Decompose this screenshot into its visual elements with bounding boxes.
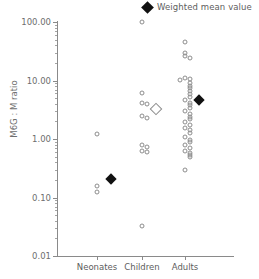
y-tick-major (53, 139, 57, 140)
y-tick-minor (55, 40, 57, 41)
x-tick (142, 256, 143, 260)
x-tick-label-children: Children (124, 262, 159, 272)
y-tick-minor (55, 180, 57, 181)
data-point (188, 105, 193, 110)
y-tick-label: 0.10 (32, 193, 51, 203)
data-point (140, 20, 145, 25)
y-tick-label: 100.00 (21, 17, 51, 27)
data-point (188, 131, 193, 136)
y-tick-major (53, 81, 57, 82)
y-tick-minor (55, 215, 57, 216)
y-tick-minor (55, 228, 57, 229)
data-point (188, 154, 193, 159)
y-tick-minor (55, 148, 57, 149)
y-tick-minor (55, 25, 57, 26)
y-tick-minor (55, 142, 57, 143)
y-tick-minor (55, 207, 57, 208)
data-point (145, 115, 150, 120)
y-tick-minor (55, 162, 57, 163)
y-tick-minor (55, 200, 57, 201)
y-tick-minor (55, 31, 57, 32)
data-point (178, 77, 183, 82)
data-point (95, 184, 100, 189)
data-point (188, 122, 193, 127)
y-tick-minor (55, 90, 57, 91)
y-tick-label: 10.00 (27, 76, 51, 86)
data-point (183, 167, 188, 172)
legend-label: Weighted mean value (157, 2, 252, 12)
x-tick (185, 256, 186, 260)
weighted-mean-marker (105, 173, 116, 184)
y-tick-minor (55, 121, 57, 122)
y-tick-minor (55, 203, 57, 204)
data-point (145, 149, 150, 154)
data-point (188, 94, 193, 99)
y-tick-label: 1.00 (32, 134, 51, 144)
y-tick-minor (55, 83, 57, 84)
y-tick-label: 0.01 (32, 251, 51, 261)
y-tick-minor (55, 152, 57, 153)
y-tick-major (53, 256, 57, 257)
x-tick-label-adults: Adults (172, 262, 199, 272)
data-point (140, 224, 145, 229)
weighted-mean-marker (193, 94, 204, 105)
data-point (188, 56, 193, 61)
black-diamond-icon (141, 1, 154, 14)
y-tick-minor (55, 157, 57, 158)
data-point (140, 91, 145, 96)
plot-area: 100.0010.001.000.100.01 NeonatesChildren… (57, 22, 234, 256)
y-tick-minor (55, 63, 57, 64)
data-point (183, 40, 188, 45)
chart-container: Weighted mean value M6G : M ratio 100.00… (0, 0, 259, 279)
x-axis-line (56, 256, 234, 257)
x-tick (97, 256, 98, 260)
data-point (95, 190, 100, 195)
data-point (145, 102, 150, 107)
y-tick-minor (55, 93, 57, 94)
data-point (188, 116, 193, 121)
chart-legend: Weighted mean value (143, 2, 252, 12)
y-axis-label: M6G : M ratio (9, 66, 19, 152)
y-tick-minor (55, 86, 57, 87)
y-tick-minor (55, 28, 57, 29)
y-tick-major (53, 198, 57, 199)
y-tick-minor (55, 104, 57, 105)
y-tick-major (53, 22, 57, 23)
y-tick-minor (55, 210, 57, 211)
data-point (95, 132, 100, 137)
y-tick-minor (55, 53, 57, 54)
y-tick-minor (55, 45, 57, 46)
y-tick-minor (55, 221, 57, 222)
y-axis-line (57, 21, 58, 257)
y-tick-minor (55, 111, 57, 112)
y-tick-minor (55, 35, 57, 36)
x-tick-label-neonates: Neonates (77, 262, 117, 272)
y-tick-minor (55, 170, 57, 171)
y-tick-minor (55, 238, 57, 239)
data-point (188, 140, 193, 145)
y-tick-minor (55, 98, 57, 99)
weighted-mean-marker (150, 103, 163, 116)
y-tick-minor (55, 145, 57, 146)
